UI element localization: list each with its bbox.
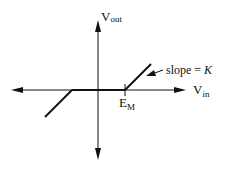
slope-annotation-symbol: K	[204, 63, 212, 77]
x-axis-label: Vin	[193, 83, 209, 96]
y-axis-label: Vout	[101, 10, 122, 23]
y-axis-down-arrow-icon	[95, 148, 101, 160]
x-axis-label-sub: in	[202, 89, 209, 99]
threshold-label: EM	[119, 96, 135, 109]
diagram-canvas	[0, 0, 225, 170]
y-axis-label-sub: out	[110, 14, 122, 24]
x-axis-label-main: V	[193, 82, 202, 97]
threshold-label-sub: M	[127, 102, 135, 112]
positive-slope-segment	[125, 64, 151, 90]
slope-annotation-arrow	[146, 70, 163, 76]
annotation-arrowhead-icon	[146, 70, 156, 76]
threshold-label-main: E	[119, 95, 127, 110]
transfer-characteristic-diagram: Vout Vin EM slope = K	[0, 0, 225, 170]
x-axis-right-arrow-icon	[174, 87, 186, 93]
negative-slope-segment	[45, 90, 72, 117]
slope-annotation-prefix: slope =	[166, 63, 204, 77]
slope-annotation-label: slope = K	[166, 64, 212, 76]
x-axis-left-arrow-icon	[11, 87, 23, 93]
y-axis-label-main: V	[101, 9, 110, 24]
